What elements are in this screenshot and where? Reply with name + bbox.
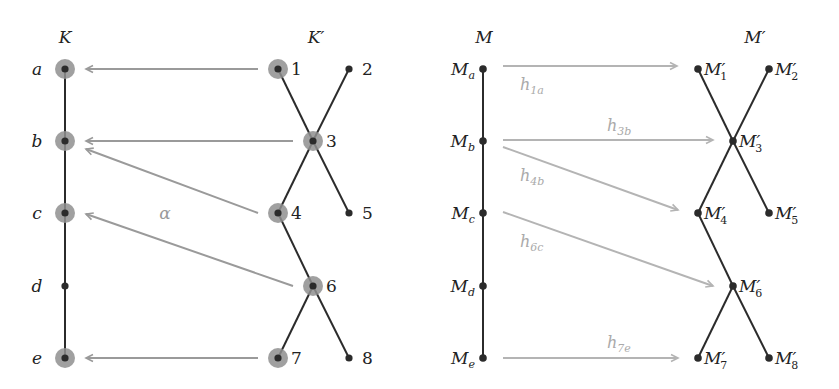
node-label-d: d <box>32 276 43 296</box>
node-label-3: 3 <box>326 131 337 151</box>
node-M3 <box>729 137 737 145</box>
tree-edge <box>278 213 313 286</box>
node-b <box>61 137 68 144</box>
node-dots <box>61 65 352 361</box>
alpha-label: α <box>159 203 171 223</box>
node-3 <box>309 137 316 144</box>
node-label-b: b <box>32 131 43 151</box>
title-K-prime: K′ <box>307 27 325 47</box>
node-label-4: 4 <box>291 203 302 223</box>
node-label-a: a <box>32 59 42 79</box>
node-label-M8: M′8 <box>774 348 798 372</box>
node-1 <box>274 65 281 72</box>
right-diagram-M: M M′ h1ah3bh4bh6ch7e MaMbMcMdMeM′1M′2M′3… <box>450 27 799 372</box>
node-label-M3: M′3 <box>738 131 762 155</box>
node-Mb <box>479 137 487 145</box>
alpha-map-arrows <box>86 66 293 362</box>
node-2 <box>345 65 352 72</box>
left-diagram-K: K K′ abcde12345678 α <box>32 27 373 368</box>
map-label-h4b: h4b <box>520 166 544 188</box>
node-label-Me: Me <box>450 348 475 371</box>
node-Me <box>479 354 487 362</box>
node-dots <box>479 65 773 362</box>
node-label-M5: M′5 <box>774 203 798 227</box>
arrow-4-to-b <box>86 149 258 213</box>
node-label-8: 8 <box>362 348 373 368</box>
node-label-7: 7 <box>291 348 302 368</box>
title-K: K <box>58 27 73 47</box>
tree-edge <box>313 141 349 213</box>
map-label-h1a: h1a <box>520 75 544 97</box>
node-Md <box>479 282 487 290</box>
node-label-Mc: Mc <box>450 203 475 226</box>
node-label-M6: M′6 <box>738 276 762 300</box>
tree-edge <box>313 286 349 358</box>
node-7 <box>274 354 281 361</box>
node-label-Md: Md <box>450 276 475 299</box>
node-Mc <box>479 209 487 217</box>
node-M5 <box>765 209 773 217</box>
node-label-M2: M′2 <box>774 59 798 83</box>
node-d <box>61 282 68 289</box>
node-M2 <box>765 65 773 73</box>
node-labels: abcde12345678 <box>32 59 373 368</box>
node-label-6: 6 <box>326 276 337 296</box>
node-a <box>61 65 68 72</box>
node-M6 <box>729 282 737 290</box>
node-4 <box>274 209 281 216</box>
node-label-2: 2 <box>362 59 373 79</box>
node-label-Ma: Ma <box>450 59 475 82</box>
node-label-M4: M′4 <box>703 203 727 227</box>
diagram-canvas: K K′ abcde12345678 α M M′ h1ah3bh4bh6ch7… <box>0 0 839 389</box>
tree-edge <box>278 69 313 141</box>
node-c <box>61 209 68 216</box>
node-5 <box>345 209 352 216</box>
tree-edge <box>698 213 733 286</box>
node-Ma <box>479 65 487 73</box>
node-M8 <box>765 354 773 362</box>
node-M4 <box>694 209 702 217</box>
h-map-arrows: h1ah3bh4bh6ch7e <box>503 63 713 362</box>
title-M-prime: M′ <box>743 27 765 47</box>
title-M: M <box>474 27 493 47</box>
node-M7 <box>694 354 702 362</box>
node-8 <box>345 354 352 361</box>
tree-edge <box>733 286 769 358</box>
node-e <box>61 354 68 361</box>
node-label-e: e <box>32 348 42 368</box>
node-label-M7: M′7 <box>703 348 727 372</box>
node-label-M1: M′1 <box>703 59 727 83</box>
tree-edge <box>733 141 769 213</box>
map-label-h7e: h7e <box>607 333 631 355</box>
node-M1 <box>694 65 702 73</box>
tree-edge <box>698 69 733 141</box>
node-label-1: 1 <box>291 59 302 79</box>
node-6 <box>309 282 316 289</box>
arrow-6-to-c <box>86 214 293 286</box>
node-label-c: c <box>32 203 42 223</box>
map-label-h6c: h6c <box>520 232 543 254</box>
node-labels: MaMbMcMdMeM′1M′2M′3M′4M′5M′6M′7M′8 <box>450 59 799 372</box>
map-label-h3b: h3b <box>607 116 631 138</box>
node-label-Mb: Mb <box>450 131 475 154</box>
tree-K-prime-edges <box>278 69 349 358</box>
node-label-5: 5 <box>362 203 373 223</box>
node-halos <box>55 59 323 368</box>
